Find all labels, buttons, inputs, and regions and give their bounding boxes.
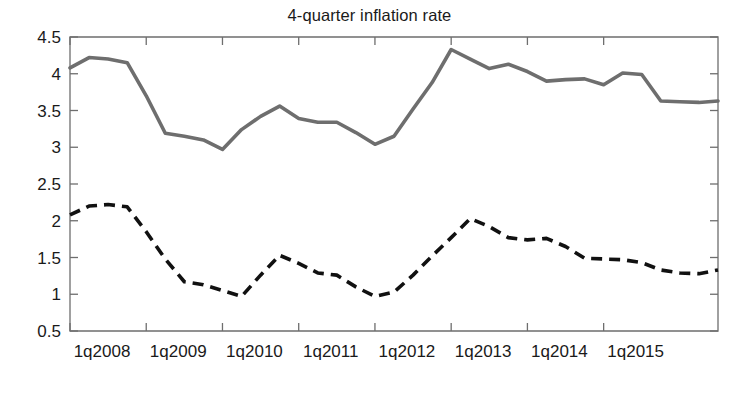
x-tick-label: 1q2015 [607,342,664,361]
data-series-group [70,50,718,297]
x-tick-label: 1q2009 [150,342,207,361]
x-tick-label: 1q2013 [455,342,512,361]
y-tick-label: 2 [52,212,61,231]
chart-figure: 4-quarter inflation rate 0.511.522.533.5… [0,0,739,413]
x-tick-labels: 1q20081q20091q20101q20111q20121q20131q20… [74,342,664,361]
series-line-solid-gray-series [70,50,718,150]
y-tick-label: 0.5 [37,322,61,341]
y-tick-label: 2.5 [37,175,61,194]
y-tick-label: 3 [52,138,61,157]
axis-frame [70,37,718,331]
y-tick-label: 4.5 [37,28,61,47]
chart-plot-area: 0.511.522.533.544.5 1q20081q20091q20101q… [0,0,739,413]
series-line-dashed-black-series [70,205,718,297]
y-tick-label: 1.5 [37,249,61,268]
x-tick-label: 1q2010 [226,342,283,361]
y-tick-marks [70,37,718,331]
x-tick-label: 1q2012 [379,342,436,361]
x-tick-label: 1q2014 [531,342,588,361]
y-tick-label: 3.5 [37,102,61,121]
x-tick-label: 1q2008 [74,342,131,361]
y-tick-label: 4 [52,65,61,84]
y-tick-label: 1 [52,285,61,304]
x-tick-label: 1q2011 [303,342,358,361]
x-tick-marks [70,37,604,331]
y-tick-labels: 0.511.522.533.544.5 [37,28,61,341]
